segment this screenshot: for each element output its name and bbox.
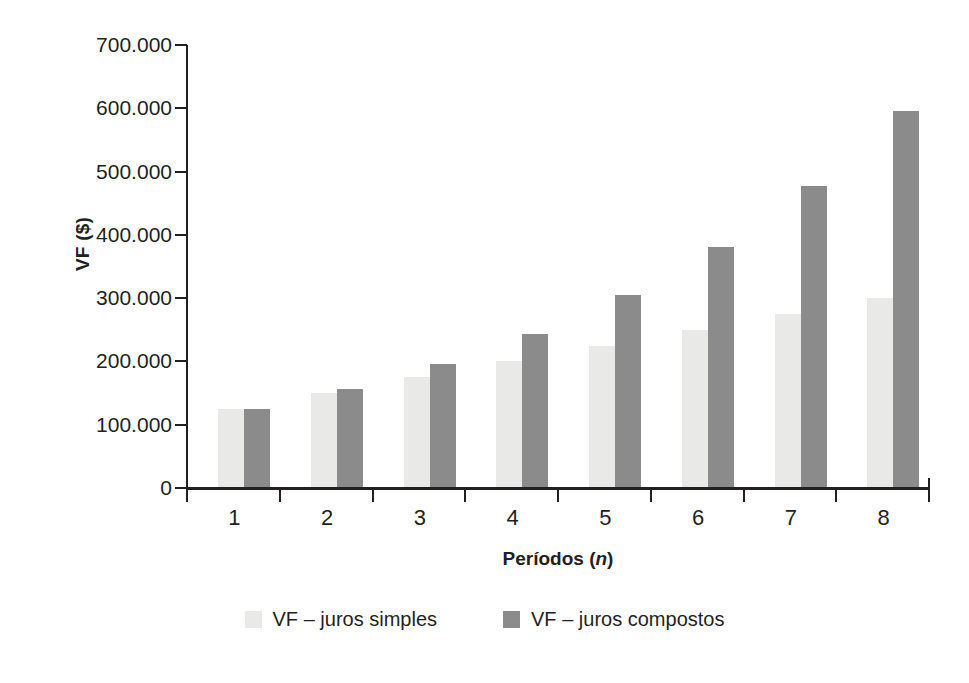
bar-juros-simples	[218, 409, 244, 488]
legend-swatch-icon	[245, 611, 262, 628]
x-axis-tick	[928, 490, 930, 502]
x-axis-title-close: )	[607, 548, 613, 569]
bar-juros-compostos	[430, 364, 456, 488]
x-axis-tick	[372, 490, 374, 502]
x-axis-end-tick	[928, 478, 930, 490]
x-axis-tick-label: 5	[575, 505, 635, 531]
bar-juros-simples	[311, 393, 337, 488]
legend-item[interactable]: VF – juros compostos	[503, 608, 724, 631]
bar-juros-compostos	[708, 247, 734, 488]
y-axis-tick-label: 0	[54, 477, 172, 498]
y-axis-tick-label: 200.000	[54, 350, 172, 371]
x-axis-tick-label: 7	[761, 505, 821, 531]
y-axis-tick	[175, 171, 187, 173]
y-axis-tick-label: 300.000	[54, 287, 172, 308]
y-axis-tick	[175, 424, 187, 426]
legend-label: VF – juros simples	[273, 608, 438, 631]
bar-group	[775, 45, 827, 488]
x-axis-title-plain: Períodos (	[503, 548, 596, 569]
x-axis-tick	[279, 490, 281, 502]
y-axis-tick-label: 400.000	[54, 224, 172, 245]
legend-item[interactable]: VF – juros simples	[245, 608, 438, 631]
bar-juros-compostos	[893, 111, 919, 488]
bar-juros-simples	[496, 361, 522, 488]
bar-juros-compostos	[337, 389, 363, 488]
y-axis-tick	[175, 234, 187, 236]
y-axis-tick-label: 100.000	[54, 414, 172, 435]
bar-group	[496, 45, 548, 488]
bar-juros-simples	[867, 298, 893, 488]
x-axis-tick-label: 4	[483, 505, 543, 531]
bar-juros-simples	[589, 346, 615, 488]
x-axis-tick-label: 3	[390, 505, 450, 531]
y-axis-tick-label: 500.000	[54, 161, 172, 182]
x-axis-tick-label: 2	[297, 505, 357, 531]
bar-juros-simples	[404, 377, 430, 488]
y-axis-tick-label: 600.000	[54, 97, 172, 118]
x-axis-tick	[650, 490, 652, 502]
bar-juros-compostos	[244, 409, 270, 488]
y-axis-tick-labels: 700.000600.000500.000400.000300.000200.0…	[54, 0, 172, 683]
y-axis-tick	[175, 360, 187, 362]
x-axis-tick	[557, 490, 559, 502]
y-axis-tick	[175, 107, 187, 109]
bar-juros-compostos	[615, 295, 641, 488]
y-axis-tick	[175, 44, 187, 46]
legend-label: VF – juros compostos	[531, 608, 724, 631]
x-axis-tick	[835, 490, 837, 502]
x-axis-title-variable: n	[595, 548, 607, 569]
legend-swatch-icon	[503, 611, 520, 628]
x-axis-tick	[464, 490, 466, 502]
bar-juros-simples	[775, 314, 801, 488]
x-axis-tick-label: 8	[854, 505, 914, 531]
x-axis-tick-label: 1	[204, 505, 264, 531]
bar-chart: VF ($) 700.000600.000500.000400.000300.0…	[0, 0, 969, 683]
bar-group	[867, 45, 919, 488]
y-axis-tick-label: 700.000	[54, 34, 172, 55]
plot-area	[188, 45, 930, 488]
bar-juros-compostos	[801, 186, 827, 488]
bar-group	[682, 45, 734, 488]
x-axis-tick-label: 6	[668, 505, 728, 531]
bar-group	[311, 45, 363, 488]
x-axis-title: Períodos (n)	[186, 548, 930, 570]
chart-legend: VF – juros simplesVF – juros compostos	[0, 608, 969, 631]
x-axis-tick	[186, 490, 188, 502]
bar-group	[589, 45, 641, 488]
y-axis-tick	[175, 297, 187, 299]
bar-group	[218, 45, 270, 488]
x-axis-tick	[743, 490, 745, 502]
bar-group	[404, 45, 456, 488]
bar-juros-simples	[682, 330, 708, 488]
bar-juros-compostos	[522, 334, 548, 489]
